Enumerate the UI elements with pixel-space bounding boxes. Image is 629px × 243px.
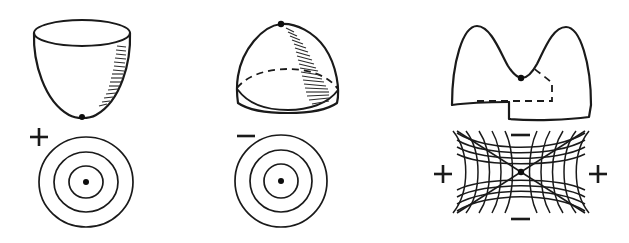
dome-body-outline — [237, 24, 338, 113]
bowl-bottom-point — [79, 114, 85, 120]
saddle-point — [518, 169, 524, 175]
plus-sign — [30, 128, 48, 146]
hyperbola-right-2 — [541, 131, 550, 213]
bowl-surface — [34, 20, 130, 120]
critical-points-figure — [0, 0, 629, 243]
dome-apex-point — [278, 21, 284, 27]
hyperbola-right-1 — [530, 131, 538, 213]
hyperbola-left-1 — [505, 131, 513, 213]
plus-sign-right — [589, 165, 607, 183]
panel-minimum — [30, 20, 133, 227]
panel-maximum — [235, 21, 338, 227]
center-dot — [278, 178, 284, 184]
saddle-surface — [452, 26, 591, 120]
saddle-hidden-back-edge — [477, 66, 552, 101]
plus-sign-left — [434, 165, 452, 183]
saddle-left-wall — [452, 102, 509, 105]
hyperbola-bottom-2 — [457, 197, 585, 211]
bowl-rim-ellipse — [34, 20, 130, 46]
center-dot — [83, 179, 89, 185]
saddle-front-lower-outline — [509, 102, 591, 120]
dome-hatching — [286, 28, 329, 104]
bowl-hatching — [99, 46, 126, 106]
saddle-front-top-edge — [452, 26, 591, 105]
saddle-contour-plot — [453, 131, 589, 213]
hyperbola-left-2 — [492, 131, 501, 213]
maximum-contour-plot — [235, 135, 327, 227]
dome-surface — [237, 21, 338, 113]
saddle-point-on-surface — [518, 75, 524, 81]
minimum-contour-plot — [39, 137, 133, 227]
dome-base-front-arc — [238, 90, 338, 110]
panel-saddle — [434, 26, 607, 219]
